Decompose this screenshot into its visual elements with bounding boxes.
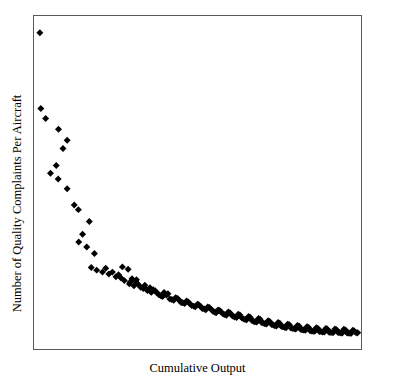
chart-title-clipped bbox=[0, 0, 397, 3]
scatter-chart-figure: Number of Quality Complaints Per Aircraf… bbox=[0, 0, 397, 386]
scatter-series-layer bbox=[34, 16, 361, 349]
plot-area-frame bbox=[33, 15, 362, 350]
x-axis-label: Cumulative Output bbox=[33, 361, 362, 376]
y-axis-label: Number of Quality Complaints Per Aircraf… bbox=[10, 59, 25, 349]
